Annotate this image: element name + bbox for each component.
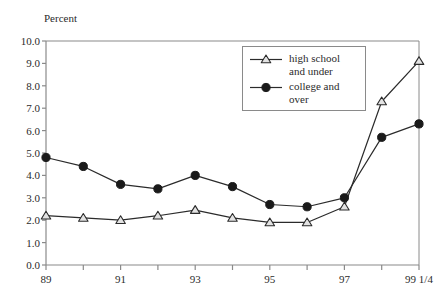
chart-figure: Percent 0.01.02.03.04.05.06.07.08.09.010… <box>0 0 439 304</box>
data-point-marker-circle <box>378 133 386 141</box>
y-axis-tick-label: 8.0 <box>6 80 40 92</box>
data-point-marker-circle <box>154 185 162 193</box>
chart-legend: high schooland undercollege andover <box>242 46 366 111</box>
legend-label: high schooland under <box>289 52 340 77</box>
data-point-marker-circle <box>117 180 125 188</box>
data-point-marker-circle <box>262 83 270 91</box>
data-point-marker-triangle <box>41 211 51 219</box>
series-high-school-and-under <box>41 57 424 226</box>
y-axis-tick-label: 4.0 <box>6 169 40 181</box>
data-point-marker-circle <box>303 203 311 211</box>
x-axis-tick-label: 89 <box>41 273 52 285</box>
legend-entry: high schooland under <box>249 52 357 77</box>
x-axis-tick-label: 91 <box>115 273 126 285</box>
y-axis-tick-label: 0.0 <box>6 259 40 271</box>
y-axis-tick-label: 5.0 <box>6 147 40 159</box>
x-axis-tick-label: 99 1/4 <box>405 273 433 285</box>
legend-label-line1: college and <box>289 80 339 93</box>
x-axis-tick-label: 95 <box>264 273 275 285</box>
data-point-marker-triangle <box>190 206 200 214</box>
y-axis-tick-label: 3.0 <box>6 192 40 204</box>
legend-label-line2: and under <box>289 65 340 78</box>
legend-label: college andover <box>289 80 339 105</box>
y-axis-tick-label: 2.0 <box>6 214 40 226</box>
data-point-marker-triangle <box>302 218 312 226</box>
legend-entry: college andover <box>249 80 357 105</box>
y-axis-tick-label: 9.0 <box>6 57 40 69</box>
y-axis-title: Percent <box>44 12 77 24</box>
legend-triangle-icon <box>249 53 283 66</box>
data-point-marker-circle <box>79 162 87 170</box>
data-point-marker-circle <box>415 120 423 128</box>
data-point-marker-triangle <box>340 202 350 210</box>
y-axis-tick-label: 7.0 <box>6 102 40 114</box>
legend-label-line1: high school <box>289 52 340 65</box>
data-point-marker-circle <box>266 200 274 208</box>
data-point-marker-triangle <box>414 57 424 65</box>
series-college-and-over <box>42 120 423 211</box>
y-axis-tick-label: 10.0 <box>6 35 40 47</box>
y-axis-tick-label: 6.0 <box>6 125 40 137</box>
data-point-marker-circle <box>340 194 348 202</box>
y-axis-tick-label: 1.0 <box>6 237 40 249</box>
x-axis-tick-label: 97 <box>339 273 350 285</box>
plot-area <box>0 0 439 304</box>
legend-circle-icon <box>249 81 283 94</box>
data-point-marker-circle <box>191 171 199 179</box>
series-line <box>46 124 419 207</box>
legend-label-line2: over <box>289 93 339 106</box>
data-point-marker-circle <box>42 153 50 161</box>
data-point-marker-triangle <box>261 55 271 63</box>
data-point-marker-circle <box>228 183 236 191</box>
x-axis-tick-label: 93 <box>190 273 201 285</box>
